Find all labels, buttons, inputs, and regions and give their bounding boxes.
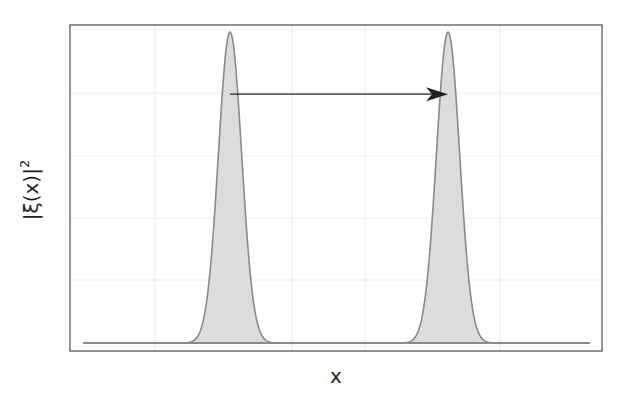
plot-frame (70, 25, 602, 351)
wavepacket-fill (378, 32, 518, 343)
translation-arrow (230, 87, 448, 101)
wavepackets (160, 32, 518, 343)
chart (0, 0, 634, 398)
y-axis-label-exponent: 2 (17, 160, 32, 168)
grid-lines (70, 25, 602, 351)
y-axis-label: |ξ(x)|2 (19, 160, 44, 220)
y-axis-label-base: |ξ(x)| (19, 168, 43, 220)
x-axis-label: x (330, 364, 342, 388)
wavepacket-fill (160, 32, 300, 343)
